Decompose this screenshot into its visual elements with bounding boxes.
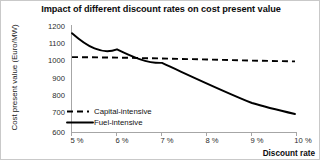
- legend-label-fuel-intensive: Fuel-intensive: [94, 118, 143, 127]
- y-tick-label-900: 900: [52, 74, 65, 83]
- x-tick-label-10: 10 %: [294, 136, 312, 145]
- legend-label-capital-intensive: Capital-intensive: [94, 107, 152, 116]
- series-line-fuel-intensive: [72, 33, 295, 114]
- y-tick-label-1100: 1100: [49, 39, 65, 48]
- x-tick-label-8: 8 %: [205, 136, 218, 145]
- x-tick-label-9: 9 %: [250, 136, 263, 145]
- x-tick-label-6: 6 %: [115, 136, 128, 145]
- chart-figure: Impact of different discount rates on co…: [0, 0, 320, 160]
- y-axis-title-text: Cost present value (Euro/MW): [10, 24, 19, 130]
- y-tick-label-800: 800: [52, 91, 65, 100]
- y-tick-label-600: 600: [52, 128, 65, 137]
- x-axis-title: Discount rate: [263, 149, 316, 158]
- plot-area: Cost present value (Euro/MW) 1200 1100 1…: [1, 1, 320, 160]
- x-tick-label-5: 5 %: [70, 136, 83, 145]
- y-tick-label-1200: 1200: [48, 22, 65, 31]
- y-axis-title-html: Cost present value (Euro/MW): [10, 18, 19, 138]
- series-line-capital-intensive: [72, 57, 295, 61]
- y-tick-label-1000: 1000: [48, 56, 65, 65]
- x-tick-label-7: 7 %: [160, 136, 173, 145]
- y-tick-label-700: 700: [52, 108, 65, 117]
